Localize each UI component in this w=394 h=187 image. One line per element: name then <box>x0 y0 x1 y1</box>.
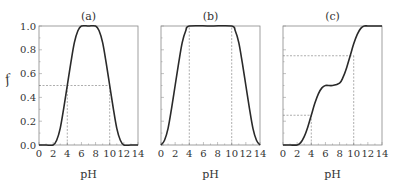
x-tick-label: 0 <box>280 148 286 159</box>
panel-title: (c) <box>325 10 340 23</box>
data-curve <box>283 26 382 145</box>
x-tick-label: 2 <box>50 148 56 159</box>
x-tick-label: 2 <box>172 148 178 159</box>
panel-title: (b) <box>203 10 219 23</box>
panel-a: 024681012140.00.20.40.60.81.0(a)pHf <box>2 10 144 181</box>
x-tick-label: 12 <box>239 148 252 159</box>
x-tick-label: 10 <box>103 148 116 159</box>
x-tick-label: 10 <box>347 148 360 159</box>
y-tick-label: 0.2 <box>20 116 36 127</box>
x-tick-label: 0 <box>158 148 164 159</box>
data-curve <box>161 26 260 145</box>
y-tick-label: 0.4 <box>20 92 36 103</box>
x-tick-label: 14 <box>254 148 267 159</box>
x-axis-label: pH <box>324 168 341 181</box>
x-tick-label: 12 <box>117 148 130 159</box>
x-tick-label: 8 <box>214 148 220 159</box>
x-tick-label: 8 <box>336 148 342 159</box>
x-axis-label: pH <box>202 168 219 181</box>
y-axis-label: f <box>2 71 14 88</box>
x-tick-label: 6 <box>322 148 328 159</box>
panel-c: 02468101214(c)pH <box>280 10 389 181</box>
x-tick-label: 4 <box>64 148 70 159</box>
y-tick-label: 1.0 <box>20 21 36 32</box>
panel-title: (a) <box>81 10 96 23</box>
x-tick-label: 2 <box>294 148 300 159</box>
y-tick-label: 0.0 <box>20 140 36 151</box>
figure: 024681012140.00.20.40.60.81.0(a)pHf02468… <box>0 0 394 187</box>
x-tick-label: 10 <box>225 148 238 159</box>
panel-b: 02468101214(b)pH <box>158 10 267 181</box>
x-tick-label: 4 <box>308 148 314 159</box>
y-tick-label: 0.8 <box>20 44 36 55</box>
x-tick-label: 0 <box>36 148 42 159</box>
x-tick-label: 4 <box>186 148 192 159</box>
x-tick-label: 14 <box>376 148 389 159</box>
x-tick-label: 8 <box>92 148 98 159</box>
x-tick-label: 6 <box>200 148 206 159</box>
x-tick-label: 6 <box>78 148 84 159</box>
x-tick-label: 12 <box>361 148 374 159</box>
x-tick-label: 14 <box>132 148 145 159</box>
y-tick-label: 0.6 <box>20 68 36 79</box>
x-axis-label: pH <box>80 168 97 181</box>
